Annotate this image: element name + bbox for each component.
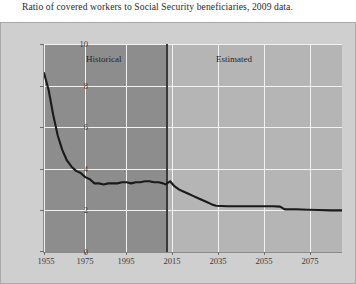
- y-tick-mark-6: [40, 127, 44, 128]
- x-tick-label-2055: 2055: [244, 256, 284, 266]
- x-tick-label-1955: 1955: [26, 256, 66, 266]
- plot-wrapper: Historical Estimated 10 8 6 4 2 0 1955 1…: [44, 44, 342, 252]
- x-tick-label-2035: 2035: [198, 256, 238, 266]
- plot-area: Historical Estimated: [44, 44, 342, 252]
- y-tick-label-8: 8: [68, 82, 88, 91]
- y-tick-label-4: 4: [68, 165, 88, 174]
- x-tick-mark-1995: [126, 252, 127, 255]
- y-tick-label-6: 6: [68, 123, 88, 132]
- data-series-line: [44, 44, 342, 252]
- y-tick-mark-2: [40, 210, 44, 211]
- annotation-estimated: Estimated: [216, 54, 252, 64]
- y-tick-mark-8: [40, 86, 44, 87]
- x-tick-label-2075: 2075: [290, 256, 330, 266]
- x-tick-mark-2055: [264, 252, 265, 255]
- y-tick-label-2: 2: [68, 206, 88, 215]
- x-tick-label-1975: 1975: [65, 256, 105, 266]
- x-tick-mark-1975: [85, 252, 86, 255]
- x-tick-mark-1955: [44, 252, 45, 255]
- chart-figure: Ratio of covered workers to Social Secur…: [0, 0, 356, 284]
- y-tick-mark-10: [40, 44, 44, 45]
- x-tick-label-2015: 2015: [152, 256, 192, 266]
- x-tick-mark-2015: [172, 252, 173, 255]
- y-tick-mark-4: [40, 169, 44, 170]
- y-axis-line: [43, 44, 44, 252]
- x-tick-label-1995: 1995: [106, 256, 146, 266]
- annotation-historical: Historical: [86, 54, 122, 64]
- chart-title: Ratio of covered workers to Social Secur…: [22, 1, 342, 12]
- x-tick-mark-2035: [218, 252, 219, 255]
- y-tick-label-10: 10: [68, 40, 88, 49]
- x-tick-mark-2075: [310, 252, 311, 255]
